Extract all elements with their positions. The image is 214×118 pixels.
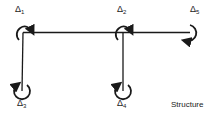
rotation-arrow-d1-icon <box>17 26 32 40</box>
label-d3: Δ3 <box>17 99 26 109</box>
label-d4: Δ4 <box>117 99 126 109</box>
left-column-member <box>22 33 23 92</box>
label-d5: Δ5 <box>190 5 199 15</box>
label-d1: Δ1 <box>15 5 24 15</box>
label-d2: Δ2 <box>117 5 126 15</box>
diagram-caption: Structure <box>171 101 203 109</box>
